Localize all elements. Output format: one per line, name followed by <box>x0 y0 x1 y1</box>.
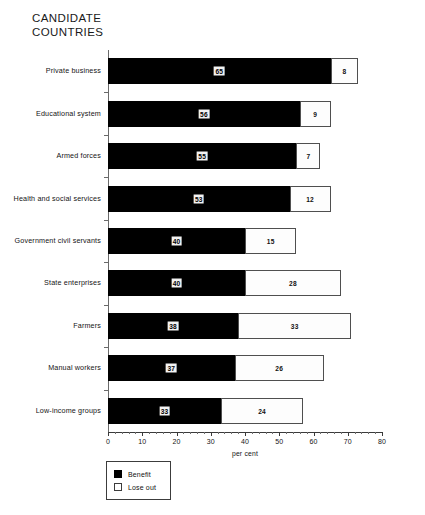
bar-value-benefit: 53 <box>193 194 204 203</box>
x-axis-tick <box>314 432 315 436</box>
x-axis-minor-tick <box>170 432 171 434</box>
x-axis-minor-tick <box>375 432 376 434</box>
legend: Benefit Lose out <box>106 461 171 500</box>
y-axis-tick <box>104 92 108 93</box>
category-label: Educational system <box>36 101 101 127</box>
chart-title: CANDIDATE COUNTRIES <box>32 12 103 39</box>
bar-segment-lose-out: 28 <box>245 270 341 296</box>
bar-segment-benefit: 65 <box>108 58 331 84</box>
y-axis-tick <box>104 220 108 221</box>
x-axis-tick-label: 0 <box>106 438 110 445</box>
x-axis-minor-tick <box>300 432 301 434</box>
legend-label-benefit: Benefit <box>128 471 151 478</box>
bar-value-benefit: 33 <box>159 406 170 415</box>
category-label: Health and social services <box>14 186 101 212</box>
x-axis-tick <box>108 432 109 436</box>
x-axis-minor-tick <box>218 432 219 434</box>
bar-value-lose-out: 9 <box>313 110 317 117</box>
bar-value-lose-out: 7 <box>306 153 310 160</box>
bar-row: State enterprises4028 <box>108 270 382 296</box>
x-axis-tick-label: 50 <box>275 438 283 445</box>
x-axis-tick-label: 70 <box>344 438 352 445</box>
x-axis-minor-tick <box>259 432 260 434</box>
x-axis-minor-tick <box>231 432 232 434</box>
x-axis-tick <box>142 432 143 436</box>
bar-value-benefit: 55 <box>197 152 208 161</box>
bar-value-lose-out: 24 <box>258 407 266 414</box>
x-axis-title: per cent <box>232 450 258 457</box>
x-axis-minor-tick <box>307 432 308 434</box>
x-axis-minor-tick <box>190 432 191 434</box>
x-axis-minor-tick <box>156 432 157 434</box>
bar-segment-lose-out: 26 <box>235 355 324 381</box>
bar-value-lose-out: 28 <box>289 280 297 287</box>
x-axis-minor-tick <box>272 432 273 434</box>
y-axis-tick <box>104 347 108 348</box>
x-axis-tick <box>245 432 246 436</box>
bar-value-benefit: 37 <box>166 364 177 373</box>
bar-row: Educational system569 <box>108 101 382 127</box>
x-axis-minor-tick <box>183 432 184 434</box>
bar-value-lose-out: 33 <box>291 322 299 329</box>
x-axis-tick <box>279 432 280 436</box>
bar-segment-lose-out: 33 <box>238 313 351 339</box>
x-axis-tick-label: 60 <box>310 438 318 445</box>
bar-segment-lose-out: 9 <box>300 101 331 127</box>
x-axis-tick-label: 20 <box>173 438 181 445</box>
bar-segment-lose-out: 7 <box>296 143 320 169</box>
category-label: State enterprises <box>44 270 101 296</box>
category-label: Farmers <box>73 313 101 339</box>
bar-segment-benefit: 33 <box>108 398 221 424</box>
x-axis-minor-tick <box>361 432 362 434</box>
category-label: Private business <box>46 58 101 84</box>
x-axis-tick <box>348 432 349 436</box>
x-axis-minor-tick <box>204 432 205 434</box>
x-axis-minor-tick <box>355 432 356 434</box>
chart-container: CANDIDATE COUNTRIES Private business658E… <box>0 0 425 515</box>
bar-segment-lose-out: 15 <box>245 228 296 254</box>
x-axis-tick <box>177 432 178 436</box>
bar-value-lose-out: 26 <box>275 365 283 372</box>
x-axis-minor-tick <box>368 432 369 434</box>
bar-segment-benefit: 37 <box>108 355 235 381</box>
bar-row: Low-income groups3324 <box>108 398 382 424</box>
bar-value-benefit: 40 <box>171 279 182 288</box>
legend-item-lose-out: Lose out <box>114 481 156 493</box>
legend-swatch-lose-out-icon <box>114 483 122 491</box>
x-axis-minor-tick <box>293 432 294 434</box>
x-axis-minor-tick <box>163 432 164 434</box>
x-axis-minor-tick <box>122 432 123 434</box>
bar-value-benefit: 56 <box>199 109 210 118</box>
category-label: Government civil servants <box>15 228 101 254</box>
chart-title-line-1: CANDIDATE <box>32 12 103 26</box>
plot-area: Private business658Educational system569… <box>108 50 382 432</box>
bar-row: Armed forces557 <box>108 143 382 169</box>
category-label: Low-income groups <box>36 398 101 424</box>
bar-row: Private business658 <box>108 58 382 84</box>
bar-value-benefit: 65 <box>214 67 225 76</box>
bar-value-benefit: 38 <box>168 321 179 330</box>
bar-segment-benefit: 40 <box>108 270 245 296</box>
x-axis-minor-tick <box>286 432 287 434</box>
x-axis-minor-tick <box>320 432 321 434</box>
bar-value-lose-out: 8 <box>342 68 346 75</box>
x-axis-tick-label: 80 <box>378 438 386 445</box>
bar-segment-benefit: 40 <box>108 228 245 254</box>
bar-value-lose-out: 12 <box>306 195 314 202</box>
x-axis-minor-tick <box>238 432 239 434</box>
bar-segment-benefit: 56 <box>108 101 300 127</box>
y-axis-tick <box>104 262 108 263</box>
x-axis-tick-label: 10 <box>138 438 146 445</box>
bar-segment-lose-out: 12 <box>290 186 331 212</box>
y-axis-tick <box>104 135 108 136</box>
legend-swatch-benefit-icon <box>114 470 122 478</box>
category-label: Armed forces <box>56 143 101 169</box>
x-axis-minor-tick <box>224 432 225 434</box>
bar-row: Government civil servants4015 <box>108 228 382 254</box>
legend-label-lose-out: Lose out <box>128 484 156 491</box>
legend-item-benefit: Benefit <box>114 468 156 480</box>
y-axis-tick <box>104 305 108 306</box>
x-axis-minor-tick <box>266 432 267 434</box>
x-axis-minor-tick <box>197 432 198 434</box>
bar-segment-lose-out: 8 <box>331 58 358 84</box>
